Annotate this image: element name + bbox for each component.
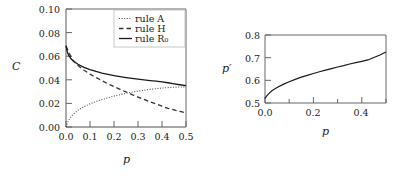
left-panel-series [66, 46, 186, 127]
right-panel-series [265, 52, 386, 98]
legend-label-rule-r0: rule R₀ [135, 33, 168, 44]
series-rule-h-dashed [66, 46, 186, 113]
left-panel-ticks [66, 9, 186, 127]
right-panel-ticks [265, 35, 386, 103]
left-panel-frame [66, 9, 186, 127]
right-panel-plot-area [200, 0, 400, 176]
series-p-prime-solid [265, 52, 386, 98]
series-rule-a-dotted [66, 87, 186, 127]
series-rule-r0-solid [66, 46, 186, 86]
figure-canvas: C p 0.00 0.02 0.04 0.06 0.08 0.10 0.0 0.… [0, 0, 400, 176]
right-panel-frame [265, 35, 386, 103]
left-panel-plot-area: rule A rule H rule R₀ [0, 0, 200, 176]
right-panel: p′ p 0.5 0.6 0.7 0.8 0.0 0.2 0.4 [200, 0, 400, 176]
left-panel-legend: rule A rule H rule R₀ [114, 10, 185, 47]
left-panel: C p 0.00 0.02 0.04 0.06 0.08 0.10 0.0 0.… [0, 0, 200, 176]
